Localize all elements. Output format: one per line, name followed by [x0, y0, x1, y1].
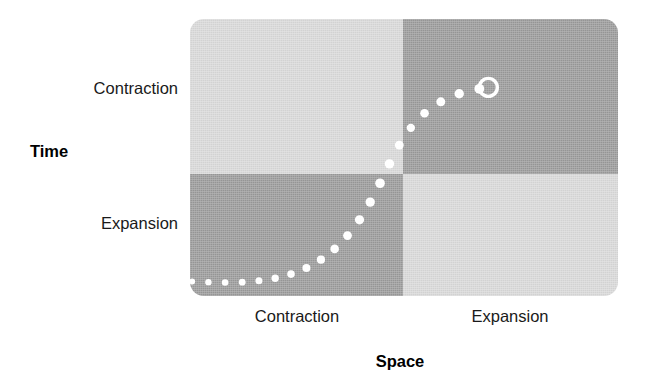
- quadrant-space-contraction-time-expansion: [190, 174, 403, 296]
- quadrant-space-expansion-time-contraction: [403, 19, 618, 174]
- y-axis-title: Time: [30, 142, 68, 161]
- x-axis-tick-expansion: Expansion: [471, 307, 548, 326]
- y-axis-tick-contraction: Contraction: [94, 79, 178, 98]
- quadrant-chart-figure: You are here Contraction Expansion Time …: [0, 0, 652, 389]
- quadrant-space-expansion-time-expansion: [403, 174, 618, 296]
- x-axis-tick-contraction: Contraction: [255, 307, 339, 326]
- plot-area: You are here: [190, 19, 618, 296]
- quadrant-space-contraction-time-contraction: [190, 19, 403, 174]
- y-axis-tick-expansion: Expansion: [101, 214, 178, 233]
- x-axis-title: Space: [376, 352, 425, 371]
